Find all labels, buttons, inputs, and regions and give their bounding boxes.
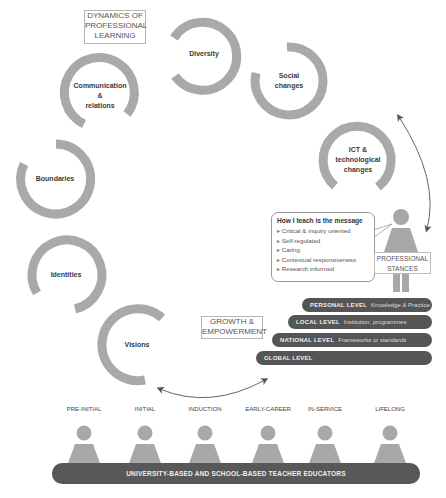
ring-label-diversity: Diversity xyxy=(189,49,219,59)
level-personal: PERSONAL LEVELKnowledge & Practice xyxy=(302,298,432,312)
stage-label-in-service: IN-SERVICE xyxy=(308,406,342,412)
bubble-tail xyxy=(373,224,392,238)
ring-label-visions: Visions xyxy=(125,340,150,350)
level-global: GLOBAL LEVEL xyxy=(256,351,432,365)
bubble-item: Research informed xyxy=(277,264,369,274)
stage-label-initial: INITIAL xyxy=(135,406,155,412)
person-icon-pre-initial xyxy=(67,426,101,467)
ring-label-identities: Identities xyxy=(51,270,82,280)
stage-label-early-career: EARLY-CAREER xyxy=(245,406,291,412)
arrow-bottom-cycle xyxy=(160,380,265,398)
level-national: NATIONAL LEVELFrameworks or standards xyxy=(272,333,432,347)
level-local: LOCAL LEVELInstitution, programmes xyxy=(288,315,432,329)
ring-label-social-changes: Social changes xyxy=(275,71,303,91)
level-name: LOCAL LEVEL xyxy=(296,319,340,325)
diagram-canvas xyxy=(0,0,446,498)
person-icon-initial xyxy=(128,426,162,467)
level-desc: Knowledge & Practice xyxy=(371,302,430,308)
stage-label-pre-initial: PRE-INITIAL xyxy=(67,406,102,412)
level-desc: Frameworks or standards xyxy=(338,337,406,343)
bubble-title: How I teach is the message xyxy=(277,217,369,224)
bubble-item: Critical & inquiry oriented xyxy=(277,226,369,236)
ring-label-boundaries: Boundaries xyxy=(36,174,75,184)
level-name: NATIONAL LEVEL xyxy=(280,337,334,343)
ring-label-ict: ICT & technological changes xyxy=(335,145,380,175)
stage-label-lifelong: LIFELONG xyxy=(375,406,405,412)
bubble-item: Contextual responsiveness xyxy=(277,255,369,265)
bubble-item: Caring xyxy=(277,245,369,255)
level-desc: Institution, programmes xyxy=(344,319,407,325)
professional-person-icon xyxy=(382,209,420,292)
growth-empowerment-box: GROWTH & EMPOWERMENT xyxy=(201,316,263,339)
ring-label-communication: Communication & relations xyxy=(74,81,127,111)
teacher-educators-bar: UNIVERSITY-BASED AND SCHOOL-BASED TEACHE… xyxy=(52,463,420,484)
stage-persons xyxy=(67,426,407,467)
level-name: GLOBAL LEVEL xyxy=(264,355,313,361)
teaching-message-bubble: How I teach is the message Critical & in… xyxy=(271,212,375,282)
professional-stances-label: PROFESSIONAL STANCES xyxy=(374,252,431,274)
person-icon-early-career xyxy=(251,426,285,467)
stage-label-induction: INDUCTION xyxy=(188,406,221,412)
dynamics-title-box: DYNAMICS OF PROFESSIONAL LEARNING xyxy=(84,10,146,44)
person-icon-induction xyxy=(188,426,222,467)
bubble-item: Self-regulated xyxy=(277,236,369,246)
person-icon-lifelong xyxy=(373,426,407,467)
level-name: PERSONAL LEVEL xyxy=(310,302,367,308)
person-icon-in-service xyxy=(308,426,342,467)
